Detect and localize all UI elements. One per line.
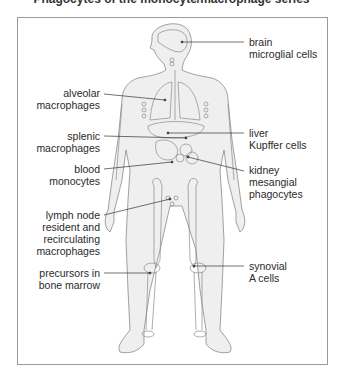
label-brain-microglial-cells: brain microglial cells: [249, 36, 329, 60]
label-kidney-mesangial-phagocytes: kidney mesangial phagocytes: [249, 164, 329, 200]
label-splenic-macrophages: splenic macrophages: [20, 130, 100, 154]
label-bone-marrow-precursors: precursors in bone marrow: [20, 267, 100, 291]
label-liver-kupffer-cells: liver Kupffer cells: [249, 127, 329, 151]
label-alveolar-macrophages: alveolar macrophages: [20, 87, 100, 111]
label-lymph-node-macrophages: lymph node resident and recirculating ma…: [20, 209, 100, 257]
label-synovial-a-cells: synovial A cells: [249, 260, 329, 284]
label-blood-monocytes: blood monocytes: [20, 163, 100, 187]
